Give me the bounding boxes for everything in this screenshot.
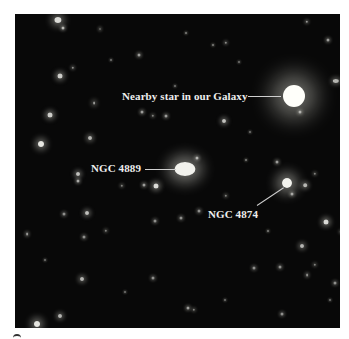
- celestial-object: [281, 313, 284, 316]
- celestial-object: [88, 136, 92, 140]
- celestial-object: [306, 21, 308, 23]
- celestial-object: [334, 282, 337, 285]
- celestial-object: [80, 277, 84, 281]
- celestial-object: [329, 299, 331, 301]
- celestial-object: [38, 141, 44, 147]
- galaxy-cluster-photo: [15, 14, 340, 328]
- celestial-object: [143, 184, 146, 187]
- celestial-object: [58, 314, 62, 318]
- celestial-object: [300, 244, 304, 248]
- celestial-object: [291, 193, 294, 196]
- celestial-object: [333, 79, 339, 83]
- celestial-object: [154, 220, 157, 223]
- galaxy-ngc-4889: [175, 162, 196, 176]
- celestial-object: [303, 183, 307, 187]
- celestial-object: [212, 44, 214, 46]
- celestial-object: [63, 213, 66, 216]
- celestial-object: [327, 39, 330, 42]
- celestial-object: [314, 173, 316, 175]
- celestial-object: [77, 180, 80, 183]
- celestial-object: [187, 307, 190, 310]
- celestial-object: [238, 61, 240, 63]
- celestial-object: [276, 161, 279, 164]
- celestial-object: [121, 185, 123, 187]
- celestial-object: [249, 131, 251, 133]
- celestial-object: [83, 236, 86, 239]
- celestial-object: [165, 115, 168, 118]
- celestial-object: [48, 113, 53, 118]
- celestial-object: [34, 321, 40, 327]
- leader-line-nearby-star: [248, 96, 281, 97]
- celestial-object: [62, 27, 65, 30]
- celestial-object: [267, 230, 269, 232]
- celestial-object: [253, 267, 256, 270]
- celestial-object: [76, 172, 80, 176]
- cut-off-caption-glyph: [13, 334, 21, 339]
- celestial-object: [225, 42, 227, 44]
- celestial-object: [225, 195, 227, 197]
- celestial-object: [245, 159, 247, 161]
- celestial-object: [93, 102, 95, 105]
- celestial-object: [100, 28, 101, 30]
- celestial-object: [72, 67, 74, 69]
- celestial-object: [314, 264, 316, 266]
- celestial-object: [85, 211, 89, 215]
- celestial-object: [196, 157, 199, 160]
- label-nearby-star: Nearby star in our Galaxy: [122, 91, 248, 102]
- celestial-object: [299, 111, 302, 114]
- label-ngc-4889: NGC 4889: [91, 163, 141, 174]
- celestial-object: [138, 54, 141, 57]
- celestial-object: [58, 74, 63, 79]
- celestial-object: [105, 230, 107, 232]
- celestial-object: [141, 111, 144, 114]
- label-ngc-4874: NGC 4874: [208, 209, 258, 220]
- celestial-object: [306, 274, 308, 277]
- celestial-object: [222, 119, 226, 123]
- celestial-object: [124, 291, 126, 293]
- celestial-object: [193, 309, 195, 311]
- celestial-object: [174, 85, 176, 87]
- celestial-object: [26, 233, 28, 236]
- celestial-object: [180, 217, 183, 220]
- nearby-star: [283, 85, 305, 107]
- celestial-object: [152, 277, 155, 280]
- celestial-object: [154, 184, 159, 189]
- celestial-object: [324, 220, 329, 225]
- celestial-object: [185, 32, 187, 34]
- celestial-object: [224, 299, 226, 301]
- celestial-object: [110, 59, 112, 61]
- celestial-object: [54, 17, 61, 23]
- celestial-object: [152, 115, 154, 117]
- leader-line-ngc-4889: [145, 169, 176, 170]
- celestial-object: [198, 210, 201, 213]
- celestial-object: [279, 266, 282, 269]
- celestial-object: [44, 259, 46, 261]
